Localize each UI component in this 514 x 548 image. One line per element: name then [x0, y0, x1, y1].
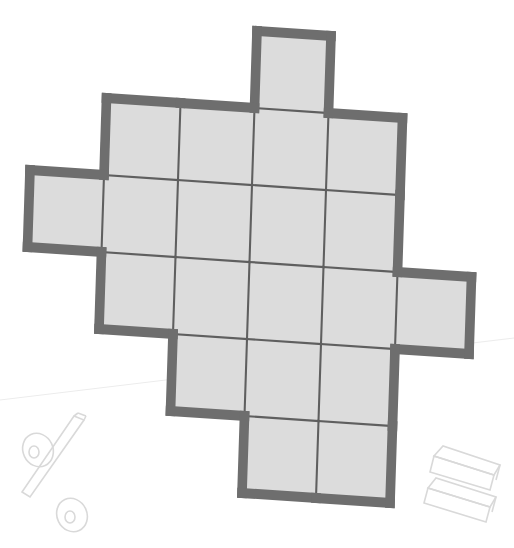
outline-edge — [242, 493, 316, 498]
outline-edge — [99, 252, 102, 329]
grid-square — [321, 267, 398, 349]
grid-square — [28, 170, 105, 252]
grid-square — [324, 190, 401, 272]
grid-square — [104, 98, 181, 180]
grid-square — [255, 31, 332, 113]
percent-sign-icon — [17, 413, 93, 537]
grid-square — [326, 113, 403, 195]
grid-square — [319, 344, 396, 426]
grid-square — [252, 108, 329, 190]
outline-edge — [395, 349, 469, 354]
outline-edge — [255, 31, 258, 108]
stacked-blocks-icon — [424, 446, 500, 522]
outline-edge — [257, 31, 331, 36]
outline-edge — [329, 113, 403, 118]
grid-square — [250, 185, 327, 267]
grid-square — [242, 416, 319, 498]
outline-edge — [171, 411, 245, 416]
outline-edge — [28, 247, 102, 252]
outline-edge — [242, 416, 245, 493]
outline-edge — [400, 118, 403, 195]
polyomino-figure — [0, 0, 514, 548]
grid-square — [178, 103, 255, 185]
outline-edge — [171, 334, 174, 411]
outline-edge — [107, 98, 181, 103]
outline-edge — [329, 36, 332, 113]
outline-edge — [398, 272, 472, 277]
outline-edge — [104, 98, 107, 175]
outline-edge — [316, 498, 390, 503]
grid-square — [247, 262, 324, 344]
outline-edge — [28, 170, 31, 247]
outline-edge — [390, 426, 393, 503]
outline-edge — [99, 329, 173, 334]
outline-edge — [393, 349, 396, 426]
grid-square — [395, 272, 472, 354]
outline-edge — [30, 170, 104, 175]
grid-square — [102, 175, 179, 257]
outline-edge — [398, 195, 401, 272]
grid-square — [316, 421, 393, 503]
grid-square — [245, 339, 322, 421]
grid-square — [99, 252, 176, 334]
polyomino-grid — [20, 16, 479, 508]
grid-square — [171, 334, 248, 416]
grid-square — [173, 257, 250, 339]
outline-edge — [469, 277, 472, 354]
grid-square — [176, 180, 253, 262]
outline-edge — [181, 103, 255, 108]
